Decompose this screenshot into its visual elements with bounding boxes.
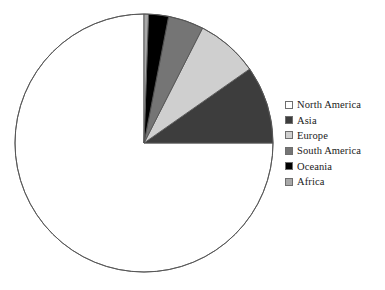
legend-swatch-icon [285, 162, 293, 170]
legend-item-label: Oceania [297, 161, 332, 172]
legend-item-label: Asia [297, 115, 317, 126]
legend-swatch-icon [285, 178, 293, 186]
legend-item[interactable]: Oceania [285, 159, 385, 174]
legend-item[interactable]: Europe [285, 128, 385, 143]
legend-item-label: North America [297, 99, 361, 110]
legend-swatch-icon [285, 147, 293, 155]
legend-item[interactable]: Africa [285, 174, 385, 189]
legend-swatch-icon [285, 116, 293, 124]
chart-legend: North AmericaAsiaEuropeSouth AmericaOcea… [285, 97, 385, 189]
legend-item[interactable]: North America [285, 97, 385, 112]
legend-swatch-icon [285, 101, 293, 109]
legend-swatch-icon [285, 131, 293, 139]
legend-item[interactable]: Asia [285, 112, 385, 127]
legend-item-label: South America [297, 145, 361, 156]
pie-chart-figure: North AmericaAsiaEuropeSouth AmericaOcea… [0, 0, 385, 290]
legend-item-label: Europe [297, 130, 328, 141]
legend-item[interactable]: South America [285, 143, 385, 158]
legend-item-label: Africa [297, 176, 324, 187]
